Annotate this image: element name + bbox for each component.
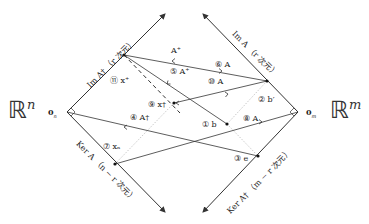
- label-x-n: ⑦ xₙ: [103, 143, 121, 151]
- origin-m-sub: m: [312, 113, 317, 119]
- space-rm-exp: m: [349, 97, 361, 112]
- space-rn-symbol: ℝ: [8, 96, 27, 124]
- label-a-plus-5: ⑤ A⁺: [170, 68, 190, 76]
- label-e-3: ③ e: [234, 155, 248, 163]
- label-a-10: ⑩ A: [208, 78, 223, 86]
- label-a-plus-top: A⁺: [171, 47, 181, 55]
- space-rn-exp: n: [27, 97, 35, 112]
- label-x-dagger: ⑨ x†: [148, 101, 166, 109]
- origin-n: 0n: [48, 108, 57, 119]
- label-a-8: ⑧ A: [243, 115, 258, 123]
- points: [113, 53, 268, 165]
- label-b-prime: ② b′: [258, 96, 274, 104]
- space-rn: ℝn: [8, 98, 35, 122]
- label-x-plus: ⑪ x⁺: [110, 77, 129, 85]
- diagram: ℝn ℝm 0n 0m Im A† （r 次元） Ker A （n − r 次元…: [0, 0, 369, 224]
- label-a-t-4: ④ A†: [130, 114, 149, 122]
- label-b-1: ① b: [202, 121, 217, 129]
- space-rm-symbol: ℝ: [330, 96, 349, 124]
- label-a-6: ⑥ A: [215, 61, 230, 69]
- space-rm: ℝm: [330, 98, 361, 122]
- origin-n-sub: n: [54, 113, 57, 119]
- origin-m: 0m: [306, 108, 316, 119]
